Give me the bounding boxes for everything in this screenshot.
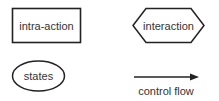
states-label: states (24, 70, 54, 82)
legend-item-intra-action: intra-action (13, 9, 81, 43)
legend-item-states: states (13, 61, 65, 91)
legend-item-interaction: interaction (133, 9, 204, 43)
legend-item-control-flow: control flow (134, 74, 199, 98)
interaction-label: interaction (143, 20, 194, 32)
control-flow-label: control flow (138, 85, 194, 97)
arrowhead-icon (190, 74, 199, 81)
legend-diagram: intra-action interaction states control … (0, 0, 219, 101)
intra-action-label: intra-action (19, 20, 73, 32)
